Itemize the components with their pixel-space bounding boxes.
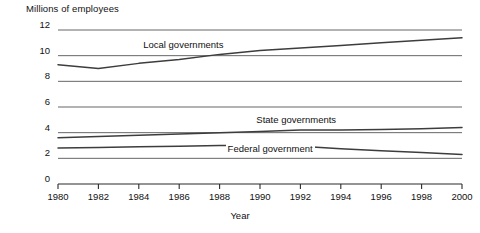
chart-container: Millions of employees 024681012 19801982… xyxy=(0,0,480,233)
y-axis-tick-label: 6 xyxy=(28,96,50,107)
y-axis-tick-label: 0 xyxy=(28,173,50,184)
series-line xyxy=(58,38,462,69)
gridlines xyxy=(58,30,462,158)
series-annotation: Federal government xyxy=(226,143,315,154)
y-axis-tick-label: 8 xyxy=(28,70,50,81)
x-axis-tick-label: 1982 xyxy=(78,191,118,202)
y-axis-tick-label: 4 xyxy=(28,122,50,133)
x-axis-tick-label: 1986 xyxy=(159,191,199,202)
x-axis-tick-label: 1990 xyxy=(240,191,280,202)
x-axis-tick-label: 2000 xyxy=(442,191,480,202)
x-axis-title: Year xyxy=(0,210,480,221)
x-axis-tick-label: 1998 xyxy=(402,191,442,202)
x-axis-tick-label: 1992 xyxy=(280,191,320,202)
x-axis-tick-label: 1996 xyxy=(361,191,401,202)
x-axis-tick-label: 1984 xyxy=(119,191,159,202)
y-axis-tick-label: 2 xyxy=(28,147,50,158)
x-axis-tick-label: 1994 xyxy=(321,191,361,202)
series-annotation: Local governments xyxy=(141,39,225,50)
x-axis xyxy=(58,184,462,189)
x-axis-tick-label: 1988 xyxy=(200,191,240,202)
series-annotation: State governments xyxy=(254,114,338,125)
x-axis-tick-label: 1980 xyxy=(38,191,78,202)
y-axis-tick-label: 10 xyxy=(28,45,50,56)
y-axis-tick-label: 12 xyxy=(28,19,50,30)
